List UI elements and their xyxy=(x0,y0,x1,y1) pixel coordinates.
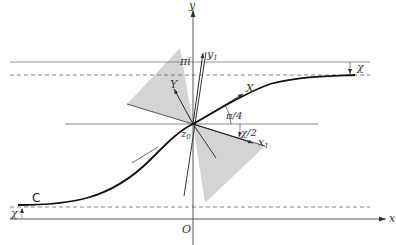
pi-i-label: πi xyxy=(179,55,191,68)
conformal-map-diagram: y x O πi C χ χ Y X y1 x1 z0 π/4 χ/2 xyxy=(0,0,396,245)
origin-label: O xyxy=(182,223,191,236)
chi-bottom-label: χ xyxy=(10,207,19,220)
y1-label: y1 xyxy=(206,48,218,62)
angle-chi-2-label: χ/2 xyxy=(240,127,257,138)
z0-label: z0 xyxy=(180,128,191,141)
y1-vector xyxy=(193,53,203,124)
X-label: X xyxy=(245,82,255,95)
x-axis-label: x xyxy=(389,212,396,225)
chi-top-label: χ xyxy=(356,61,365,74)
y-axis-label: y xyxy=(188,0,196,12)
angle-arc-chi-2 xyxy=(239,124,240,137)
x1-label: x1 xyxy=(258,136,269,150)
angle-pi-4-label: π/4 xyxy=(225,110,242,121)
curve-C-label: C xyxy=(32,191,40,205)
